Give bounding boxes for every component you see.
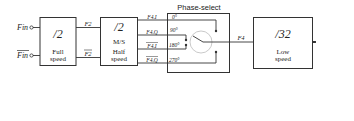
phase-180-label: 180° xyxy=(169,42,180,48)
low-speed-divider-block: /32 Low speed xyxy=(254,18,313,69)
f4q-label: F4.Q xyxy=(145,29,157,35)
f4i-bar-label: F4.I xyxy=(146,43,157,49)
f4-phase-signals: F4.I F4.Q F4.I F4.Q xyxy=(138,14,168,63)
svg-text:speed: speed xyxy=(50,55,66,63)
phase-270-label: 270° xyxy=(169,57,180,63)
phase-select-title: Phase-select xyxy=(177,3,221,12)
f4q-bar-label: F4.Q xyxy=(145,57,157,63)
f4-label: F4 xyxy=(236,34,245,41)
divider-ratio: /32 xyxy=(274,27,290,41)
f2-label: F2 xyxy=(83,20,92,27)
fin-bar-input: Fin xyxy=(16,51,40,61)
svg-text:M/S: M/S xyxy=(113,38,125,46)
fin-input: Fin xyxy=(16,23,40,32)
phase-90-label: 90° xyxy=(170,27,179,33)
prescaler-block-diagram: Fin Fin /2 Full speed F2 F2 /2 M/S Half … xyxy=(0,0,354,121)
f4i-label: F4.I xyxy=(146,14,157,20)
fin-bar-label: Fin xyxy=(16,51,28,60)
f2-bar-label: F2 xyxy=(83,50,92,57)
divider-ratio: /2 xyxy=(113,20,123,34)
f2-signals: F2 F2 xyxy=(76,20,100,58)
input-terminal-icon xyxy=(30,54,33,57)
svg-text:speed: speed xyxy=(111,55,127,63)
fin-label: Fin xyxy=(16,23,28,32)
phase-select-block: Phase-select 0° 90° 180° 270° xyxy=(168,3,230,73)
full-speed-divider-block: /2 Full speed xyxy=(40,18,76,66)
phase-0-label: 0° xyxy=(172,14,178,20)
input-terminal-icon xyxy=(30,26,33,29)
divider-ratio: /2 xyxy=(52,27,62,41)
half-speed-divider-block: /2 M/S Half speed xyxy=(101,18,138,66)
fout-output xyxy=(313,42,317,43)
svg-text:speed: speed xyxy=(275,55,291,63)
